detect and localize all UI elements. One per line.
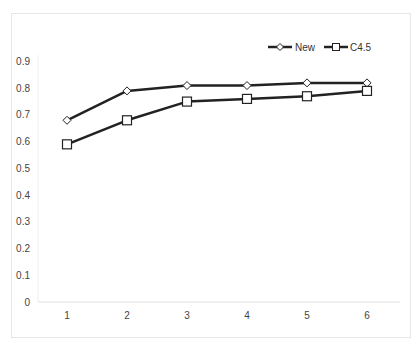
y-tick-label: 0.3 [16,216,30,227]
line-chart: 00.10.20.30.40.50.60.70.80.9 123456 New … [0,0,420,349]
y-tick-label: 0 [24,297,30,308]
y-tick-label: 0.8 [16,83,30,94]
x-tick-label: 1 [64,310,70,321]
diamond-marker-icon [243,82,251,90]
legend-item-new: New [268,42,316,53]
diamond-marker-icon [303,79,311,87]
square-marker-icon [63,140,72,149]
y-tick-label: 0.6 [16,136,30,147]
legend-label-new: New [295,42,316,53]
diamond-marker-icon [63,116,71,124]
square-marker-icon [363,86,372,95]
x-axis-ticks: 123456 [64,310,370,321]
diamond-marker-icon [123,87,131,95]
x-tick-label: 3 [184,310,190,321]
square-marker-icon [243,94,252,103]
legend: New C4.5 [268,42,372,53]
series-group [63,79,372,149]
y-tick-label: 0.9 [16,56,30,67]
x-tick-label: 2 [124,310,130,321]
y-tick-label: 0.2 [16,243,30,254]
y-tick-label: 0.7 [16,109,30,120]
y-tick-label: 0.1 [16,270,30,281]
square-marker-icon [123,116,132,125]
diamond-marker-icon [363,79,371,87]
x-tick-label: 4 [244,310,250,321]
legend-label-c45: C4.5 [350,42,372,53]
square-marker-icon [303,92,312,101]
y-axis-ticks: 00.10.20.30.40.50.60.70.80.9 [16,56,30,308]
legend-item-c45: C4.5 [324,42,372,53]
diamond-marker-icon [183,82,191,90]
square-marker-icon [333,44,340,51]
diamond-marker-icon [277,44,284,51]
series-line-new [67,83,367,120]
square-marker-icon [183,97,192,106]
y-tick-label: 0.4 [16,190,30,201]
x-tick-label: 5 [304,310,310,321]
x-tick-label: 6 [364,310,370,321]
y-tick-label: 0.5 [16,163,30,174]
